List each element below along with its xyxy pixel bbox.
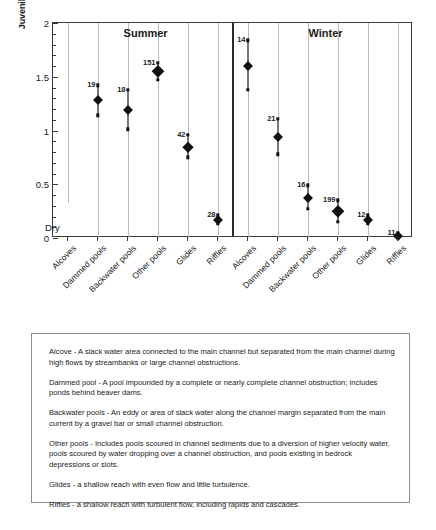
figure: Juvenile Coho Salmon Density (# / square… <box>0 0 436 300</box>
x-axis-label-alcoves: Alcoves <box>230 243 258 271</box>
y-axis-tick-label: 0 <box>44 233 49 244</box>
y-axis-minor-tick <box>53 98 56 99</box>
y-axis-tick-label: 1.5 <box>36 71 49 82</box>
y-axis-minor-tick <box>53 55 56 56</box>
error-bar-cap <box>126 128 129 131</box>
data-point-marker <box>152 65 164 77</box>
category-gridline <box>218 23 219 238</box>
x-axis-tick <box>187 237 188 241</box>
error-bar-cap <box>276 152 279 155</box>
error-bar-cap <box>306 207 309 210</box>
y-axis-minor-tick <box>53 206 56 207</box>
data-point-marker <box>332 205 344 217</box>
definition-backwater-pools: Backwater pools - An eddy or area of sla… <box>49 408 395 430</box>
y-axis-minor-tick <box>53 174 56 175</box>
sample-size-label: 11 <box>388 227 397 236</box>
annotation-dry: Dry <box>45 222 60 233</box>
panel-divider <box>232 23 233 236</box>
x-axis-tick <box>247 237 248 241</box>
category-gridline <box>68 23 69 203</box>
sample-size-label: 151 <box>143 57 157 66</box>
sample-size-label: 28 <box>207 210 217 219</box>
definition-glides: Glides - a shallow reach with even flow … <box>49 480 395 491</box>
error-bar-cap <box>336 220 339 223</box>
definition-riffles: Riffles - a shallow reach with turbulent… <box>49 500 395 511</box>
category-gridline <box>398 23 399 238</box>
y-axis-tick <box>53 77 58 78</box>
x-axis-tick <box>307 237 308 241</box>
data-point-marker <box>303 193 313 203</box>
x-axis-label-alcoves: Alcoves <box>50 243 78 271</box>
sample-size-label: 16 <box>297 180 307 189</box>
y-axis-tick-label: 2 <box>44 18 49 29</box>
panel-title-winter: Winter <box>309 27 343 39</box>
x-axis-tick <box>127 237 128 241</box>
category-gridline <box>158 23 159 238</box>
category-gridline <box>98 23 99 238</box>
y-axis-minor-tick <box>53 88 56 89</box>
y-axis-tick-label: 1 <box>44 125 49 136</box>
data-point-marker <box>243 61 253 71</box>
sample-size-label: 42 <box>177 129 187 138</box>
y-axis-tick <box>53 131 58 132</box>
y-axis-minor-tick <box>53 195 56 196</box>
plot-area: 00.511.52191815142281421161991211 <box>52 22 412 237</box>
y-axis-minor-tick <box>53 120 56 121</box>
data-point-marker <box>93 95 103 105</box>
x-axis-tick <box>67 237 68 241</box>
sample-size-label: 21 <box>267 113 277 122</box>
panel-title-summer: Summer <box>124 27 168 39</box>
x-axis-tick <box>217 237 218 241</box>
error-bar-cap <box>96 114 99 117</box>
error-bar-cap <box>156 78 159 81</box>
definition-dammed-pool: Dammed pool - A pool impounded by a comp… <box>49 378 395 400</box>
category-gridline <box>188 23 189 238</box>
x-axis-tick <box>397 237 398 241</box>
sample-size-label: 199 <box>323 195 337 204</box>
y-axis-minor-tick <box>53 217 56 218</box>
data-point-marker <box>273 132 283 142</box>
sample-size-label: 14 <box>237 35 247 44</box>
x-axis-tick <box>277 237 278 241</box>
x-axis-label-glides: Glides <box>354 243 378 267</box>
data-point-marker <box>183 141 194 152</box>
x-axis-label-riffles: Riffles <box>204 243 228 267</box>
error-bar-cap <box>186 156 189 159</box>
definition-other-pools: Other pools - Includes pools scoured in … <box>49 439 395 471</box>
y-axis-minor-tick <box>53 163 56 164</box>
x-axis-tick <box>337 237 338 241</box>
x-axis-tick <box>367 237 368 241</box>
sample-size-label: 12 <box>357 210 367 219</box>
y-axis-minor-tick <box>53 109 56 110</box>
data-point-marker <box>123 105 133 115</box>
y-axis-minor-tick <box>53 66 56 67</box>
x-axis-label-riffles: Riffles <box>384 243 408 267</box>
y-axis-minor-tick <box>53 152 56 153</box>
error-bar-cap <box>246 88 249 91</box>
y-axis-minor-tick <box>53 141 56 142</box>
definitions-box: Alcove - A slack water area connected to… <box>31 333 410 503</box>
x-axis-label-glides: Glides <box>174 243 198 267</box>
y-axis-tick <box>53 238 58 239</box>
y-axis-tick <box>53 23 58 24</box>
category-gridline <box>368 23 369 238</box>
y-axis-minor-tick <box>53 34 56 35</box>
y-axis-tick-label: 0.5 <box>36 179 49 190</box>
sample-size-label: 18 <box>117 84 127 93</box>
x-axis-tick <box>97 237 98 241</box>
x-axis-tick <box>157 237 158 241</box>
definition-alcove: Alcove - A slack water area connected to… <box>49 347 395 369</box>
y-axis-tick <box>53 184 58 185</box>
y-axis-title: Juvenile Coho Salmon Density (# / square… <box>14 0 30 36</box>
sample-size-label: 19 <box>87 80 97 89</box>
y-axis-minor-tick <box>53 45 56 46</box>
